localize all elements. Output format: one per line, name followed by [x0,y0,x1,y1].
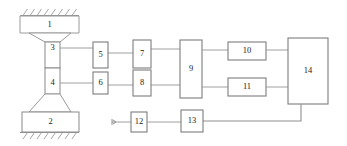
block-11-label: 11 [243,81,251,91]
block-8-label: 8 [140,77,144,87]
diagram-svg: 1 3 4 2 [0,0,347,146]
block-1-label: 1 [47,19,51,29]
block-3[interactable]: 3 [45,42,60,68]
block-9-label: 9 [189,63,193,73]
block-5-label: 5 [98,49,102,59]
block-2[interactable]: 2 [22,112,79,132]
block-14[interactable]: 14 [288,38,328,104]
block-4[interactable]: 4 [45,68,60,94]
block-8[interactable]: 8 [133,70,151,96]
block-10[interactable]: 10 [228,42,266,60]
fixed-ground-hatching-bottom-icon [20,133,79,140]
block-7[interactable]: 7 [133,40,151,68]
upper-grip-wedge [29,33,71,42]
block-2-label: 2 [48,116,52,126]
block-11[interactable]: 11 [228,78,266,96]
block-5[interactable]: 5 [93,42,108,68]
block-12-label: 12 [135,116,144,126]
block-9[interactable]: 9 [180,40,202,98]
block-3-label: 3 [50,42,54,52]
block-10-label: 10 [243,45,252,55]
block-6-label: 6 [98,77,102,87]
block-12[interactable]: 12 [131,112,147,132]
block-diagram-canvas: 1 3 4 2 [0,0,347,146]
block-13-label: 13 [188,115,197,125]
block-6[interactable]: 6 [93,72,108,94]
block-13[interactable]: 13 [181,110,203,132]
wire-14-to-13 [203,104,301,121]
lower-grip-wedge [29,94,71,112]
block-7-label: 7 [140,48,144,58]
block-14-label: 14 [304,65,313,75]
block-1[interactable]: 1 [20,16,79,33]
fixed-ground-hatching-top-icon [20,9,79,16]
